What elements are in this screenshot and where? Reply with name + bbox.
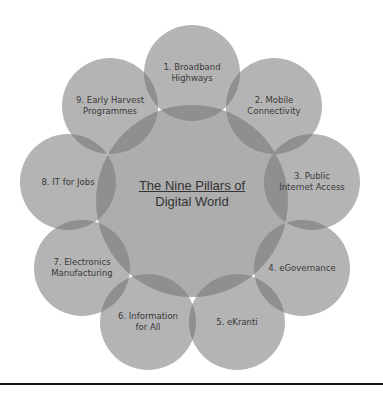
diagram-title: The Nine Pillars of Digital World xyxy=(139,178,245,210)
title-line-1: The Nine Pillars of xyxy=(139,178,245,194)
pillar-label-4: 4. eGovernance xyxy=(268,263,335,274)
pillar-label-9: 9. Early HarvestProgrammes xyxy=(76,95,144,117)
pillar-label-7: 7. ElectronicsManufacturing xyxy=(51,257,113,279)
title-line-2: Digital World xyxy=(139,194,245,210)
pillar-label-1: 1. BroadbandHighways xyxy=(163,62,220,84)
pillar-label-5: 5. eKranti xyxy=(216,317,257,328)
pillar-label-6: 6. Informationfor All xyxy=(118,311,178,333)
pillar-label-3: 3. PublicInternet Access xyxy=(279,171,345,193)
pillar-label-8: 8. IT for Jobs xyxy=(41,177,94,188)
pillar-label-2: 2. MobileConnectivity xyxy=(247,95,300,117)
horizontal-rule xyxy=(0,383,383,385)
